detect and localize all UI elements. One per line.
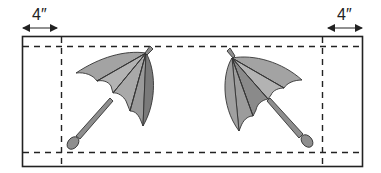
umbrella-right-icon: [225, 48, 315, 150]
right-dimension-label: 4″: [337, 6, 352, 23]
left-dimension-label: 4″: [32, 6, 47, 23]
left-dimension: 4″: [23, 6, 57, 28]
umbrella-right-tip: [227, 48, 235, 58]
right-dimension: 4″: [328, 6, 362, 28]
umbrella-left-tip: [145, 46, 153, 55]
umbrella-left-shaft: [76, 98, 113, 139]
fabric-layout-diagram: 4″ 4″: [0, 0, 381, 173]
umbrella-left-icon: [65, 46, 154, 152]
umbrella-right-shaft: [267, 98, 303, 138]
